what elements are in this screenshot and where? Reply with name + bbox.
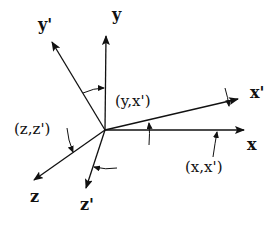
label-y-prime: y'	[37, 15, 52, 34]
label-x: x	[247, 135, 257, 154]
angle-arrow-x-tick	[213, 132, 217, 157]
z-prime-axis	[86, 130, 105, 188]
angle-label-z-zprime: (z,z')	[14, 120, 50, 138]
y-axis	[105, 36, 106, 130]
angle-arrow-y-yprime	[83, 88, 104, 93]
label-y: y	[111, 5, 122, 24]
angle-arrow-xprime-tick	[225, 88, 229, 106]
y-prime-axis	[52, 42, 105, 130]
angle-arrow-z-zprime	[94, 167, 117, 169]
label-z-prime: z'	[80, 195, 94, 214]
angle-arrow-z-tick	[67, 128, 73, 152]
label-z: z	[30, 187, 39, 206]
angle-arrow-x-xprime	[149, 123, 150, 145]
angle-label-y-xprime: (y,x')	[115, 92, 151, 110]
coordinate-frame-diagram: y y' x' x z z' (y,x') (x,x') (z,z')	[0, 0, 276, 228]
angle-label-x-xprime: (x,x')	[185, 158, 223, 176]
angle-labels: (y,x') (x,x') (z,z')	[14, 92, 223, 176]
label-x-prime: x'	[250, 83, 264, 102]
